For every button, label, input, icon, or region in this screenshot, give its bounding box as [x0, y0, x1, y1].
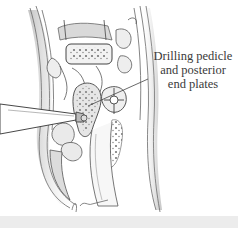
vertebral-end-plate: [66, 44, 112, 64]
callout-line-3: end plates: [148, 77, 238, 91]
bottom-band: [0, 216, 238, 228]
anatomical-illustration: [0, 0, 238, 228]
callout-label: Drilling pedicle and posterior end plate…: [148, 49, 238, 91]
spine-surgery-drawing: [0, 0, 238, 228]
callout-line-1: Drilling pedicle: [148, 49, 238, 63]
callout-line-2: and posterior: [148, 63, 238, 77]
